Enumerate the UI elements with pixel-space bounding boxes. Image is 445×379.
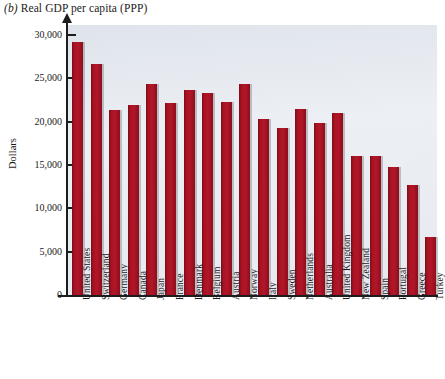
- x-axis-category-label: Canada: [138, 271, 148, 300]
- x-axis-category-label: Australia: [324, 264, 334, 300]
- x-axis-category-label: Austria: [231, 271, 241, 300]
- bar: [184, 90, 195, 295]
- x-axis-category-label: Belgium: [212, 267, 222, 300]
- x-axis-category-label: Spain: [380, 278, 390, 300]
- x-axis-category-label: Japan: [156, 278, 166, 300]
- bar: [277, 128, 288, 295]
- x-axis-category-label: New Zealand: [361, 248, 371, 300]
- x-axis-category-label: Turkey: [435, 272, 445, 300]
- bar: [91, 64, 102, 295]
- x-axis-category-label: Portugal: [398, 267, 408, 300]
- x-axis-category-label: Greece: [417, 273, 427, 301]
- x-axis-category-label: Sweden: [287, 269, 297, 300]
- x-axis-category-label: United States: [82, 248, 92, 300]
- bar: [146, 84, 157, 295]
- bar: [370, 156, 381, 295]
- bar: [239, 84, 250, 295]
- x-axis-category-label: Norway: [249, 269, 259, 300]
- x-axis-category-label: Switzerland: [101, 254, 111, 300]
- x-axis-category-label: Italy: [268, 282, 278, 300]
- x-axis-category-label: Germany: [119, 264, 129, 300]
- bar-series: [0, 0, 440, 295]
- x-axis-category-label: Netherlands: [305, 253, 315, 300]
- bar: [128, 105, 139, 295]
- bar: [165, 103, 176, 295]
- x-axis-category-label: United Kingdom: [342, 234, 352, 300]
- bar: [258, 119, 269, 295]
- bar: [221, 102, 232, 295]
- x-axis-category-label: France: [175, 274, 185, 300]
- x-axis-category-label: Denmark: [194, 264, 204, 300]
